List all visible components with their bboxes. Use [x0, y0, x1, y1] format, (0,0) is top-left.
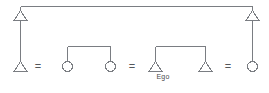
bottom-male-1-triangle-icon	[14, 62, 27, 72]
top-right-male-triangle-icon	[246, 11, 259, 21]
bottom-male-ego-triangle-icon	[149, 62, 162, 72]
bottom-female-1-circle-icon	[63, 62, 73, 72]
bottom-female-2-circle-icon	[106, 62, 116, 72]
kinship-diagram-canvas	[0, 0, 269, 93]
kinship-diagram: = = = Ego	[0, 0, 269, 93]
marriage-symbol-3: =	[222, 61, 234, 72]
bottom-female-3-circle-icon	[248, 62, 258, 72]
ego-label: Ego	[143, 72, 183, 81]
marriage-symbol-1: =	[32, 61, 44, 72]
marriage-symbol-2: =	[126, 61, 138, 72]
bottom-male-2-triangle-icon	[199, 62, 212, 72]
top-left-male-triangle-icon	[14, 11, 27, 21]
